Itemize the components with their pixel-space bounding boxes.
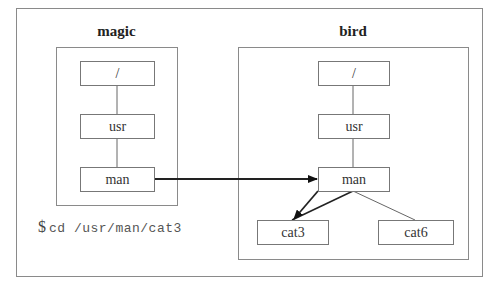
- bird-node-man: man: [318, 167, 390, 192]
- magic-node-usr: usr: [80, 114, 155, 139]
- magic-node-man: man: [80, 167, 155, 192]
- shell-command: $cd /usr/man/cat3: [38, 218, 182, 236]
- edges-layer: [0, 0, 488, 291]
- bird-node-usr: usr: [318, 114, 390, 139]
- magic-node-root: /: [80, 61, 155, 86]
- shell-prompt: $: [38, 218, 46, 235]
- edge-bird-man-cat3: [292, 191, 353, 220]
- command-text: cd /usr/man/cat3: [49, 221, 182, 236]
- bird-node-cat6: cat6: [378, 220, 454, 245]
- edge-bird-man-cat6: [353, 191, 415, 220]
- path-arrow: [294, 191, 318, 219]
- bird-node-cat3: cat3: [257, 220, 329, 245]
- bird-node-root: /: [318, 61, 390, 86]
